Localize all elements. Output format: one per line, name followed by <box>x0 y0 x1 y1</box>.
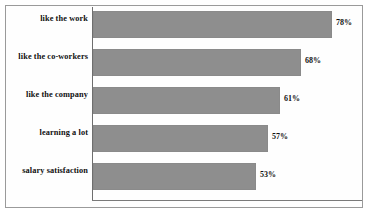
category-label: like the work <box>40 14 88 23</box>
category-label: learning a lot <box>40 128 88 137</box>
bar-row: learning a lot 57% <box>0 119 369 157</box>
bar-row: salary satisfaction 53% <box>0 157 369 195</box>
value-axis-baseline <box>92 200 362 201</box>
bar-value-label: 53% <box>260 170 276 179</box>
horizontal-bar-chart: like the work 78% like the co-workers 68… <box>0 0 369 216</box>
bar-value-label: 61% <box>284 94 300 103</box>
bar-segment <box>93 49 301 76</box>
bar-value-label: 57% <box>272 132 288 141</box>
bar-value-label: 78% <box>336 18 352 27</box>
category-label: like the company <box>26 90 88 99</box>
bar-row: like the company 61% <box>0 81 369 119</box>
bar-row: like the co-workers 68% <box>0 43 369 81</box>
plot-area: like the work 78% like the co-workers 68… <box>0 0 369 216</box>
category-label: like the co-workers <box>18 52 88 61</box>
bar-segment <box>93 163 256 190</box>
bar-segment <box>93 11 332 38</box>
bar-segment <box>93 87 280 114</box>
bar-value-label: 68% <box>305 56 321 65</box>
bar-row: like the work 78% <box>0 5 369 43</box>
category-label: salary satisfaction <box>22 166 88 175</box>
bar-segment <box>93 125 268 152</box>
